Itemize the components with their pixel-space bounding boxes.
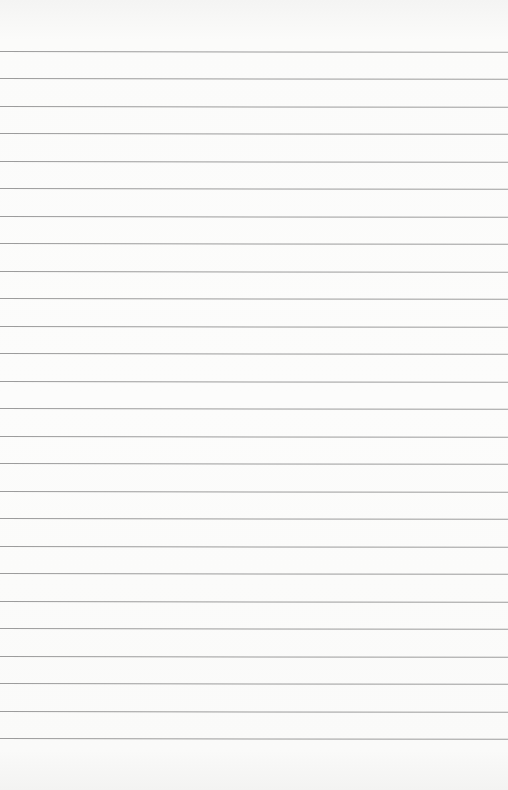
ruled-line [0,271,508,273]
ruled-line [0,683,508,685]
ruled-line [0,78,508,80]
ruled-line [0,353,508,355]
ruled-line [0,216,508,218]
ruled-line [0,381,508,383]
ruled-line [0,106,508,108]
ruled-line [0,628,508,630]
ruled-line [0,161,508,163]
ruled-line [0,463,508,465]
ruled-line [0,573,508,575]
ruled-line [0,491,508,493]
ruled-line [0,711,508,713]
ruled-line [0,133,508,135]
ruled-line [0,243,508,245]
ruled-line [0,546,508,548]
ruled-line [0,408,508,410]
ruled-line [0,326,508,328]
ruled-line [0,601,508,603]
ruled-line [0,298,508,300]
ruled-line [0,51,508,53]
ruled-line [0,188,508,190]
ruled-line [0,738,508,740]
ruled-line [0,436,508,438]
lined-paper-sheet [0,0,508,790]
ruled-line [0,518,508,520]
ruled-line [0,656,508,658]
